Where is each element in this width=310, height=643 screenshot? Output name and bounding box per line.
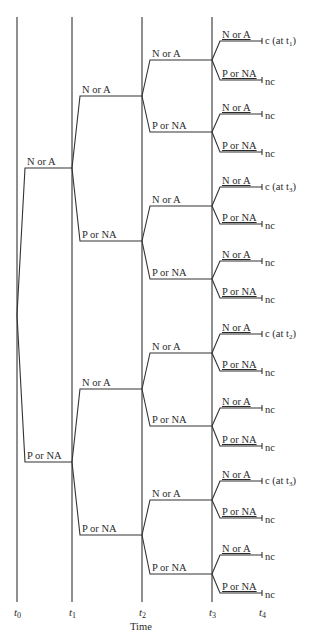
branch-t4-0 xyxy=(212,41,262,60)
event-tree-diagram: N or AP or NAN or AP or NAN or AP or NAN… xyxy=(0,0,310,643)
branch-t4-8 xyxy=(212,334,262,353)
outcome-no-change: nc xyxy=(265,551,275,562)
branch-t4-4 xyxy=(212,187,262,206)
branch-t4-0-label: N or A xyxy=(222,29,251,40)
branch-t3-2 xyxy=(142,206,212,241)
outcome-no-change: nc xyxy=(265,110,275,121)
outcome-no-change: nc xyxy=(265,148,275,159)
time-axis: t0t1t2t3t4Time xyxy=(14,606,266,632)
branch-t3-1-label: P or NA xyxy=(152,120,187,131)
branch-t2-3-label: P or NA xyxy=(82,523,117,534)
branch-t4-10-label: N or A xyxy=(222,396,251,407)
branch-t4-14 xyxy=(212,555,262,574)
branch-t4-9-label: P or NA xyxy=(222,359,257,370)
outcome-no-change: nc xyxy=(265,294,275,305)
branch-t4-6-label: N or A xyxy=(222,249,251,260)
branch-t1-0 xyxy=(17,168,72,315)
outcome-no-change: nc xyxy=(265,257,275,268)
branch-t3-0 xyxy=(142,60,212,96)
axis-tick-t3: t3 xyxy=(209,606,216,620)
outcome-no-change: nc xyxy=(265,514,275,525)
time-gridlines xyxy=(17,17,212,602)
branch-t4-12-label: N or A xyxy=(222,469,251,480)
branch-t4-5-label: P or NA xyxy=(222,212,257,223)
axis-tick-t1: t1 xyxy=(69,606,76,620)
branch-t3-3-label: P or NA xyxy=(152,267,187,278)
outcome-change: c (at t3) xyxy=(265,475,296,488)
axis-title: Time xyxy=(130,621,152,632)
outcome-no-change: nc xyxy=(265,76,275,87)
branch-t3-6-label: N or A xyxy=(152,488,181,499)
branch-labels: N or AP or NAN or AP or NAN or AP or NAN… xyxy=(27,29,296,600)
branch-t4-13-label: P or NA xyxy=(222,506,257,517)
branch-t2-1-label: P or NA xyxy=(82,229,117,240)
outcome-no-change: nc xyxy=(265,220,275,231)
axis-tick-t4: t4 xyxy=(259,606,266,620)
branch-t1-0-label: N or A xyxy=(27,156,56,167)
branch-t4-2 xyxy=(212,114,262,132)
branch-t2-2 xyxy=(72,389,142,462)
branch-t1-1-label: P or NA xyxy=(27,450,62,461)
branch-t4-11-label: P or NA xyxy=(222,434,257,445)
branch-t4-4-label: N or A xyxy=(222,175,251,186)
branch-t2-0-label: N or A xyxy=(82,84,111,95)
outcome-no-change: nc xyxy=(265,442,275,453)
branch-t3-4-label: N or A xyxy=(152,341,181,352)
branch-t4-7-label: P or NA xyxy=(222,286,257,297)
branch-t2-0 xyxy=(72,96,142,168)
branch-t4-8-label: N or A xyxy=(222,322,251,333)
outcome-change: c (at t3) xyxy=(265,181,296,194)
outcome-no-change: nc xyxy=(265,367,275,378)
branch-t4-1-label: P or NA xyxy=(222,68,257,79)
branch-t4-15-label: P or NA xyxy=(222,581,257,592)
outcome-no-change: nc xyxy=(265,404,275,415)
outcome-change: c (at t1) xyxy=(265,35,296,48)
outcome-no-change: nc xyxy=(265,589,275,600)
branch-t2-2-label: N or A xyxy=(82,377,111,388)
branch-t4-6 xyxy=(212,261,262,279)
branch-t3-0-label: N or A xyxy=(152,48,181,59)
branch-t3-6 xyxy=(142,500,212,535)
branch-t3-2-label: N or A xyxy=(152,194,181,205)
branch-t3-4 xyxy=(142,353,212,389)
axis-tick-t0: t0 xyxy=(14,606,21,620)
branch-t4-14-label: N or A xyxy=(222,543,251,554)
branch-t4-2-label: N or A xyxy=(222,102,251,113)
branch-t1-1 xyxy=(17,315,72,462)
branch-t4-3-label: P or NA xyxy=(222,140,257,151)
branch-t4-12 xyxy=(212,481,262,500)
outcome-change: c (at t2) xyxy=(265,328,296,341)
branch-t3-7-label: P or NA xyxy=(152,562,187,573)
axis-tick-t2: t2 xyxy=(139,606,146,620)
branch-t4-10 xyxy=(212,408,262,426)
branch-t3-5-label: P or NA xyxy=(152,414,187,425)
